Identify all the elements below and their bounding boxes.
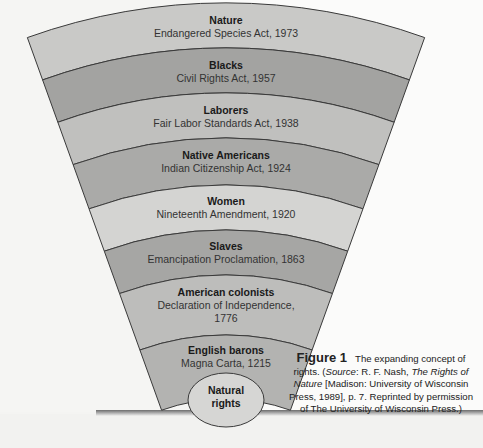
band-nature: Nature Endangered Species Act, 1973 — [106, 14, 346, 40]
band-subtitle: Indian Citizenship Act, 1924 — [106, 162, 346, 175]
band-title: Nature — [106, 14, 346, 27]
center-label-line1: Natural — [190, 384, 262, 397]
band-subtitle: Fair Labor Standards Act, 1938 — [106, 117, 346, 130]
band-title: Native Americans — [106, 149, 346, 162]
band-subtitle: Nineteenth Amendment, 1920 — [106, 208, 346, 221]
band-title: Women — [106, 195, 346, 208]
band-subtitle: Emancipation Proclamation, 1863 — [106, 253, 346, 266]
band-subtitle: Civil Rights Act, 1957 — [106, 72, 346, 85]
band-title: Laborers — [106, 104, 346, 117]
band-title: Blacks — [106, 59, 346, 72]
caption-source-label: Source — [326, 366, 356, 377]
center-label-line2: rights — [190, 397, 262, 410]
band-american-colonists: American colonists Declaration of Indepe… — [106, 286, 346, 325]
band-subtitle: Endangered Species Act, 1973 — [106, 27, 346, 40]
band-subtitle-line2: 1776 — [106, 312, 346, 325]
band-slaves: Slaves Emancipation Proclamation, 1863 — [106, 240, 346, 266]
band-women: Women Nineteenth Amendment, 1920 — [106, 195, 346, 221]
band-title: Slaves — [106, 240, 346, 253]
band-title: American colonists — [106, 286, 346, 299]
caption-source-prefix: (Source: R. F. Nash, — [322, 366, 411, 377]
natural-rights-label: Natural rights — [190, 384, 262, 410]
band-laborers: Laborers Fair Labor Standards Act, 1938 — [106, 104, 346, 130]
band-blacks: Blacks Civil Rights Act, 1957 — [106, 59, 346, 85]
figure-caption: Figure 1The expanding concept of rights.… — [286, 352, 476, 416]
figure-number: Figure 1 — [297, 350, 348, 365]
band-subtitle: Declaration of Independence, — [106, 299, 346, 312]
band-native-americans: Native Americans Indian Citizenship Act,… — [106, 149, 346, 175]
